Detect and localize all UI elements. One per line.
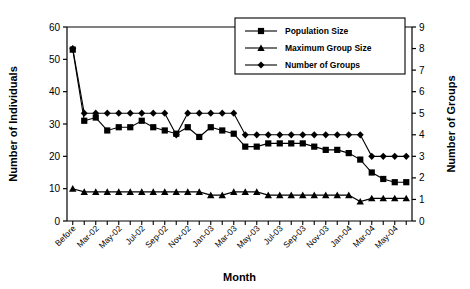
data-point <box>276 131 283 138</box>
data-point <box>138 110 145 117</box>
square-marker-icon <box>258 28 264 34</box>
data-point <box>288 131 295 138</box>
data-point <box>403 179 409 185</box>
data-point <box>346 150 352 156</box>
data-point <box>369 169 375 175</box>
data-point <box>161 110 168 117</box>
data-point <box>104 127 110 133</box>
x-axis-tick-label: Mar-04 <box>351 223 377 249</box>
data-point <box>115 110 122 117</box>
data-point <box>150 110 157 117</box>
legend-label: Maximum Group Size <box>285 43 372 53</box>
data-point <box>392 179 398 185</box>
data-point <box>116 124 122 130</box>
data-point <box>380 176 386 182</box>
y-axis-tick-label: 10 <box>49 183 61 194</box>
data-point <box>368 153 375 160</box>
y-axis-tick-label: 60 <box>49 22 61 33</box>
data-point <box>403 153 410 160</box>
data-point <box>357 156 363 162</box>
chart-figure: 01020304050600123456789BeforeMar-02May-0… <box>0 0 470 289</box>
left-axis-title: Number of Individuals <box>7 66 19 182</box>
data-point <box>208 124 214 130</box>
data-point <box>139 118 145 124</box>
data-point <box>162 127 168 133</box>
data-point <box>277 140 283 146</box>
y-axis-tick-label: 50 <box>49 54 61 65</box>
data-point <box>300 140 306 146</box>
data-point <box>184 110 191 117</box>
data-point <box>81 110 88 117</box>
y2-axis-tick-label: 2 <box>419 172 425 183</box>
data-point <box>104 110 111 117</box>
x-axis-tick-label: Jan-03 <box>190 223 216 249</box>
data-point <box>219 127 225 133</box>
x-axis-tick-label: Nov-02 <box>166 223 193 250</box>
legend-label: Population Size <box>285 26 349 36</box>
data-point <box>127 124 133 130</box>
y2-axis-tick-label: 8 <box>419 43 425 54</box>
data-point <box>391 153 398 160</box>
series-maximum-group-size <box>69 185 410 205</box>
x-axis-tick-label: Sep-03 <box>281 223 308 250</box>
data-point <box>380 153 387 160</box>
chart-canvas: 01020304050600123456789BeforeMar-02May-0… <box>0 0 470 289</box>
y2-axis-tick-label: 6 <box>419 86 425 97</box>
x-axis-tick-label: Before <box>53 223 78 248</box>
data-point <box>207 110 214 117</box>
x-axis-tick-label: May-02 <box>97 223 124 250</box>
data-point <box>196 110 203 117</box>
data-point <box>185 124 191 130</box>
data-point <box>265 131 272 138</box>
right-axis-title: Number of Groups <box>445 75 457 172</box>
y2-axis-tick-label: 5 <box>419 108 425 119</box>
data-point <box>334 147 340 153</box>
data-point <box>254 144 260 150</box>
y2-axis-tick-label: 0 <box>419 216 425 227</box>
x-axis-tick-label: Nov-03 <box>304 223 331 250</box>
data-point <box>334 131 341 138</box>
y2-axis-tick-label: 4 <box>419 129 425 140</box>
series-line <box>73 189 407 202</box>
data-point <box>323 147 329 153</box>
data-point <box>357 131 364 138</box>
data-point <box>127 110 134 117</box>
y-axis-tick-label: 20 <box>49 151 61 162</box>
x-axis-tick-label: May-04 <box>373 223 400 250</box>
data-point <box>311 144 317 150</box>
y2-axis-tick-label: 9 <box>419 22 425 33</box>
data-point <box>150 124 156 130</box>
x-axis-tick-label: Mar-03 <box>213 223 239 249</box>
x-axis-title: Month <box>223 271 256 283</box>
data-point <box>253 131 260 138</box>
x-axis-tick-label: Mar-02 <box>75 223 101 249</box>
data-point <box>242 131 249 138</box>
data-point <box>230 110 237 117</box>
data-point <box>299 131 306 138</box>
y-axis-tick-label: 0 <box>54 216 60 227</box>
data-point <box>196 134 202 140</box>
y-axis-tick-label: 30 <box>49 119 61 130</box>
data-point <box>265 140 271 146</box>
x-axis-tick-label: May-03 <box>235 223 262 250</box>
legend-label: Number of Groups <box>285 60 360 70</box>
data-point <box>69 185 76 192</box>
data-point <box>219 110 226 117</box>
data-point <box>242 144 248 150</box>
y2-axis-tick-label: 7 <box>419 65 425 76</box>
y-axis-tick-label: 40 <box>49 86 61 97</box>
data-point <box>231 131 237 137</box>
data-point <box>81 118 87 124</box>
data-point <box>311 131 318 138</box>
data-point <box>322 131 329 138</box>
y2-axis-tick-label: 1 <box>419 194 425 205</box>
data-point <box>288 140 294 146</box>
x-axis-tick-label: Sep-02 <box>143 223 170 250</box>
x-axis-tick-label: Jan-04 <box>328 223 354 249</box>
data-point <box>345 131 352 138</box>
y2-axis-tick-label: 3 <box>419 151 425 162</box>
